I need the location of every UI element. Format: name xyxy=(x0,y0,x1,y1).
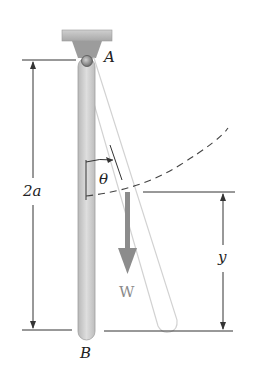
label-weight-w: W xyxy=(119,285,134,300)
label-end-b: B xyxy=(80,346,91,361)
label-pivot-a: A xyxy=(104,50,115,65)
pivot-pin-icon xyxy=(82,56,93,67)
label-angle-theta: θ xyxy=(99,172,108,187)
diagram-canvas: A 2a θ y W B xyxy=(0,0,254,380)
weight-arrow xyxy=(118,192,137,274)
label-height-y: y xyxy=(217,250,227,265)
label-length-2a: 2a xyxy=(22,184,43,199)
